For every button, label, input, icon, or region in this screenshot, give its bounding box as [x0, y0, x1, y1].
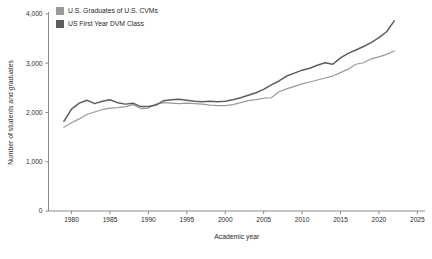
y-tick-label: 2,000: [26, 109, 43, 116]
x-axis-title: Academic year: [214, 233, 260, 241]
legend-swatch-icon: [56, 20, 64, 28]
x-tick-label: 1990: [141, 216, 156, 223]
legend-swatch-icon: [56, 7, 64, 15]
x-tick-label: 2000: [218, 216, 233, 223]
x-tick-label: 2010: [295, 216, 310, 223]
legend-item-label: US First Year DVM Class: [68, 20, 144, 28]
x-tick-label: 1985: [103, 216, 118, 223]
x-tick-label: 2015: [333, 216, 348, 223]
x-tick-label: 2005: [256, 216, 271, 223]
y-tick-label: 3,000: [26, 60, 43, 67]
y-tick-label: 4,000: [26, 10, 43, 17]
series-lines: [64, 21, 394, 127]
y-axis-title: Number of students and graduates: [7, 60, 15, 165]
x-tick-label: 1995: [179, 216, 194, 223]
legend-item[interactable]: U.S. Graduates of U.S. CVMs: [56, 6, 158, 16]
x-tick-label: 1980: [64, 216, 79, 223]
chart-container: 01,0002,0003,0004,000 198019851990199520…: [0, 0, 432, 259]
series-line-0: [64, 51, 394, 127]
x-tick-label: 2025: [410, 216, 425, 223]
y-axis-ticks: 01,0002,0003,0004,000: [26, 10, 49, 214]
chart-legend: U.S. Graduates of U.S. CVMsUS First Year…: [56, 6, 158, 29]
x-axis-ticks: 1980198519901995200020052010201520202025: [64, 211, 425, 223]
y-tick-label: 1,000: [26, 158, 43, 165]
line-chart-plot: 01,0002,0003,0004,000 198019851990199520…: [0, 0, 432, 259]
legend-item[interactable]: US First Year DVM Class: [56, 19, 158, 29]
legend-item-label: U.S. Graduates of U.S. CVMs: [68, 7, 158, 15]
x-tick-label: 2020: [372, 216, 387, 223]
y-tick-label: 0: [39, 207, 43, 214]
